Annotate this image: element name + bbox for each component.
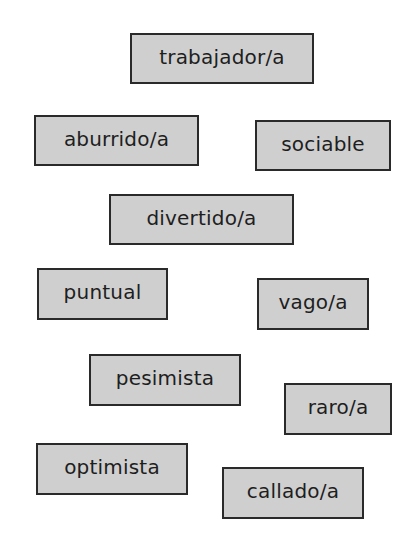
word-card-label: optimista: [64, 455, 160, 479]
word-card-label: callado/a: [247, 479, 339, 503]
word-card-label: vago/a: [278, 290, 347, 314]
word-card-label: raro/a: [308, 395, 369, 419]
word-card-label: divertido/a: [146, 206, 256, 230]
word-card-label: aburrido/a: [64, 127, 169, 151]
word-card-trabajador-a[interactable]: trabajador/a: [130, 33, 314, 84]
word-card-puntual[interactable]: puntual: [37, 268, 168, 320]
word-card-vago-a[interactable]: vago/a: [257, 278, 369, 330]
word-card-raro-a[interactable]: raro/a: [284, 383, 392, 435]
word-card-label: trabajador/a: [159, 45, 285, 69]
word-card-label: puntual: [64, 280, 142, 304]
word-card-label: pesimista: [116, 366, 214, 390]
word-card-divertido-a[interactable]: divertido/a: [109, 194, 294, 245]
word-card-label: sociable: [281, 132, 365, 156]
word-card-pesimista[interactable]: pesimista: [89, 354, 241, 406]
word-card-sociable[interactable]: sociable: [255, 120, 391, 171]
word-card-optimista[interactable]: optimista: [36, 443, 188, 495]
word-card-aburrido-a[interactable]: aburrido/a: [34, 115, 199, 166]
word-card-callado-a[interactable]: callado/a: [222, 467, 364, 519]
